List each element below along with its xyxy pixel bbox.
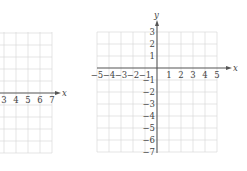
tick-label: 4 xyxy=(202,70,207,80)
tick-label: −6 xyxy=(142,135,155,145)
left-x-tick-labels: 3 4 5 6 7 xyxy=(1,95,54,105)
right-x-tick-labels: −5 −4 −3 −2 −1 1 2 3 4 5 xyxy=(91,70,220,80)
tick-label: −7 xyxy=(142,147,155,157)
tick-label: 2 xyxy=(150,39,155,49)
tick-label: −2 xyxy=(127,70,140,80)
tick-label: −4 xyxy=(103,70,116,80)
tick-label: 2 xyxy=(178,70,183,80)
tick-label: 7 xyxy=(49,95,54,105)
right-x-axis-arrow-icon xyxy=(226,66,232,70)
left-grid: x 3 4 5 6 7 xyxy=(0,32,67,153)
right-x-axis-label: x xyxy=(233,63,238,73)
right-y-axis-arrow-icon xyxy=(155,20,159,26)
tick-label: 3 xyxy=(1,95,6,105)
tick-label: 3 xyxy=(150,27,155,37)
tick-label: −3 xyxy=(142,99,155,109)
right-y-axis-label: y xyxy=(153,10,159,20)
left-x-axis-arrow-icon xyxy=(55,91,61,95)
tick-label: 5 xyxy=(214,70,219,80)
tick-label: −1 xyxy=(142,75,155,85)
coordinate-grids: x 3 4 5 6 7 xyxy=(0,0,247,171)
tick-label: −4 xyxy=(142,111,155,121)
tick-label: −2 xyxy=(142,87,155,97)
tick-label: −3 xyxy=(115,70,128,80)
tick-label: 1 xyxy=(166,70,171,80)
tick-label: −5 xyxy=(91,70,104,80)
tick-label: 6 xyxy=(37,95,42,105)
right-y-tick-labels: 3 2 1 −1 −2 −3 −4 −5 −6 −7 xyxy=(142,27,155,157)
left-x-axis-label: x xyxy=(62,88,67,98)
right-grid: x y −5 −4 −3 −2 −1 1 2 3 4 5 3 2 1 −1 −2… xyxy=(91,10,238,157)
tick-label: −5 xyxy=(142,123,155,133)
tick-label: 5 xyxy=(25,95,30,105)
tick-label: 4 xyxy=(13,95,18,105)
tick-label: 1 xyxy=(150,51,155,61)
tick-label: 3 xyxy=(190,70,195,80)
